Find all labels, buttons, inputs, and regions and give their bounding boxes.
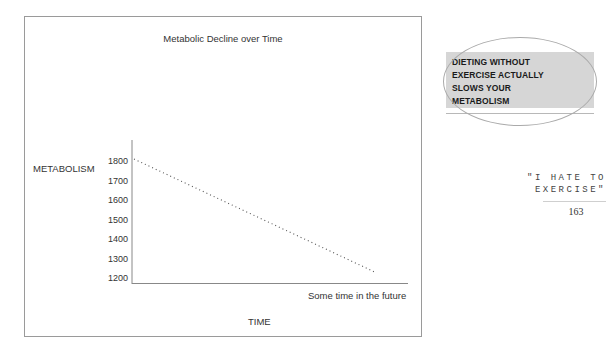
page-number: 163 (556, 206, 596, 217)
running-head-divider (543, 201, 606, 202)
running-head-line: EXERCISE" (526, 184, 606, 196)
running-head-line: "I HATE TO (526, 172, 606, 184)
x-axis-label: TIME (248, 316, 271, 327)
x-annotation: Some time in the future (308, 290, 406, 301)
running-head: "I HATE TO EXERCISE" (526, 172, 606, 196)
highlight-ellipse (443, 37, 597, 126)
metabolism-series-line (134, 159, 376, 273)
